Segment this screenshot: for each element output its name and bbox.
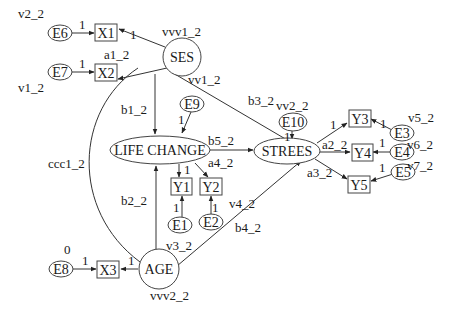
path-label-e4-y4: 1: [379, 135, 386, 150]
variance-label-ses: vvv1_2: [162, 24, 201, 39]
age-label: AGE: [145, 262, 174, 277]
path-label-ses-lifechange: b1_2: [121, 102, 147, 117]
path-label-ses-x2: a1_2: [104, 47, 129, 62]
x3-label: X3: [99, 263, 116, 278]
e1-label: E1: [172, 218, 188, 233]
node-ses[interactable]: SES: [163, 38, 201, 76]
variance-label-e1: v3_2: [166, 238, 192, 253]
variance-label-age: vvv2_2: [150, 288, 189, 303]
x2-label: X2: [97, 66, 114, 81]
path-label-ses-x1: 1: [130, 27, 137, 42]
node-y5[interactable]: Y5: [348, 176, 370, 193]
path-label-lifechange-y1: 1: [184, 162, 191, 177]
path-label-ses-age-covariance: ccc1_2: [48, 156, 85, 171]
node-y4[interactable]: Y4: [352, 144, 373, 161]
node-e9[interactable]: E9: [180, 96, 204, 112]
path-label-e2-y2: 1: [212, 200, 219, 215]
node-y1[interactable]: Y1: [171, 178, 192, 195]
edge-e5-y5: [371, 174, 393, 181]
node-age[interactable]: AGE: [139, 249, 179, 289]
y3-label: Y3: [351, 112, 368, 127]
path-label-lifechange-y2: a4_2: [208, 155, 233, 170]
strees-label: STREES: [262, 144, 313, 159]
e8-label: E8: [53, 262, 69, 277]
edge-age-strees: [177, 161, 301, 266]
path-label-ses-strees: b3_2: [248, 93, 274, 108]
e7-label: E7: [52, 65, 68, 80]
variance-label-e8: 0: [64, 242, 71, 257]
variance-label-e2: v4_2: [229, 196, 255, 211]
path-label-age-lifechange: b2_2: [121, 193, 147, 208]
path-label-e8-x3: 1: [82, 253, 89, 268]
path-label-age-strees: b4_2: [235, 220, 261, 235]
variance-label-e6: v2_2: [18, 6, 44, 21]
node-life-change[interactable]: LIFE CHANGE: [110, 136, 210, 164]
path-label-strees-y4: a2_2: [322, 137, 347, 152]
e2-label: E2: [203, 215, 219, 230]
node-y3[interactable]: Y3: [349, 110, 371, 127]
y1-label: Y1: [173, 180, 190, 195]
path-label-lifechange-strees: b5_2: [208, 133, 234, 148]
path-label-e10-strees: 1: [284, 129, 291, 144]
y4-label: Y4: [354, 146, 371, 161]
e6-label: E6: [52, 26, 68, 41]
y5-label: Y5: [350, 178, 367, 193]
life-change-label: LIFE CHANGE: [114, 143, 205, 158]
edge-ses-age-covariance: [89, 68, 140, 262]
path-label-e3-y3: 1: [380, 116, 387, 131]
e10-label: E10: [282, 115, 305, 130]
node-e8[interactable]: E8: [49, 261, 73, 277]
node-x1[interactable]: X1: [95, 24, 117, 41]
edge-lifechange-y2: [195, 163, 208, 177]
path-label-strees-y5: a3_2: [307, 165, 332, 180]
ses-label: SES: [170, 50, 194, 65]
node-e6[interactable]: E6: [48, 25, 72, 41]
node-e7[interactable]: E7: [48, 64, 72, 80]
variance-label-e9: vv1_2: [188, 72, 221, 87]
edge-ses-x1: [119, 29, 165, 47]
path-label-strees-y3: 1: [330, 117, 337, 132]
variance-label-e3: v5_2: [408, 110, 434, 125]
variance-label-e10: vv2_2: [276, 98, 309, 113]
path-label-e1-y1: 1: [173, 200, 180, 215]
path-label-age-x3: 1: [128, 253, 135, 268]
node-x3[interactable]: X3: [97, 261, 119, 278]
variance-label-e5: v7_2: [407, 158, 433, 173]
y2-label: Y2: [202, 180, 219, 195]
variance-label-e7: v1_2: [18, 80, 44, 95]
node-e2[interactable]: E2: [199, 214, 223, 230]
path-diagram: SES AGE LIFE CHANGE STREES X1 X2 X3 Y1 Y…: [0, 0, 449, 317]
path-label-e9-lifechange: 1: [178, 112, 185, 127]
x1-label: X1: [97, 26, 114, 41]
variance-label-e4: v6_2: [407, 137, 433, 152]
path-label-e7-x2: 1: [79, 56, 86, 71]
path-labels: 1 1 1 a1_2 b1_2 b3_2 ccc1_2 1 b5_2 1 a4_…: [48, 17, 387, 268]
node-x2[interactable]: X2: [95, 64, 117, 81]
path-label-e6-x1: 1: [79, 17, 86, 32]
node-e1[interactable]: E1: [168, 217, 192, 233]
node-y2[interactable]: Y2: [200, 178, 222, 195]
path-label-e5-y5: 1: [379, 160, 386, 175]
e9-label: E9: [184, 97, 200, 112]
